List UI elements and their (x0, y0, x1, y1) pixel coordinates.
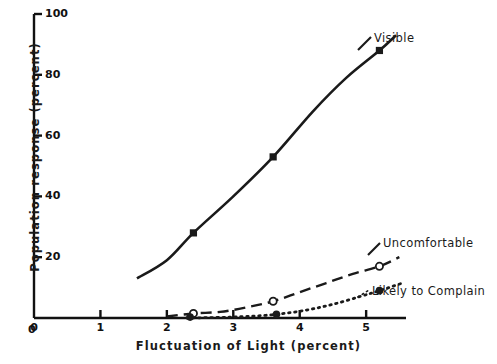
series-curves (137, 35, 403, 318)
data-marker (270, 153, 277, 160)
data-marker (376, 47, 383, 54)
y-tick-label: 20 (45, 250, 60, 263)
label-leader-lines (358, 37, 380, 297)
series-label-likely-to-complain: Likely to Complain (372, 284, 485, 298)
series-curve-1 (167, 257, 399, 316)
x-tick-label: 3 (218, 321, 248, 334)
data-marker (190, 229, 197, 236)
plot-area (0, 0, 497, 364)
x-tick-label: 4 (285, 321, 315, 334)
x-tick-label: 1 (85, 321, 115, 334)
y-tick-label: 40 (45, 189, 60, 202)
y-tick-label: 60 (45, 129, 60, 142)
leader-line-uncomfortable (368, 243, 380, 255)
y-tick-label: 100 (45, 7, 68, 20)
series-markers (186, 47, 383, 321)
data-marker (186, 313, 194, 321)
leader-line-likely (358, 290, 369, 297)
x-axis-title: Fluctuation of Light (percent) (0, 339, 497, 353)
x-tick-label: 0 (19, 321, 49, 334)
series-curve-0 (137, 35, 396, 278)
y-axis-title: Population response (percent) (28, 32, 42, 282)
series-label-visible: Visible (374, 31, 414, 45)
y-tick-label: 80 (45, 68, 60, 81)
axis-lines (34, 14, 406, 318)
x-tick-label: 5 (351, 321, 381, 334)
leader-line-visible (358, 37, 371, 50)
data-marker (270, 298, 277, 305)
data-marker (376, 263, 383, 270)
chart-figure: Fluctuation of Light (percent) Populatio… (0, 0, 497, 364)
series-label-uncomfortable: Uncomfortable (383, 236, 473, 250)
x-tick-label: 2 (152, 321, 182, 334)
data-marker (273, 311, 281, 319)
